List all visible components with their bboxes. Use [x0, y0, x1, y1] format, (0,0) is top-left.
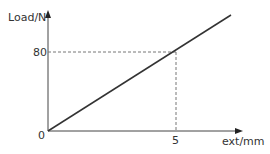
origin-label: 0: [38, 129, 45, 142]
x-axis-arrow-icon: [235, 128, 243, 134]
data-line: [48, 15, 231, 131]
x-axis-label: ext/mm: [222, 135, 265, 148]
y-tick-80: 80: [33, 46, 47, 59]
load-extension-graph: Load/N 80 0 5 ext/mm: [0, 0, 270, 154]
x-tick-5: 5: [172, 134, 179, 147]
y-axis-label: Load/N: [8, 11, 46, 24]
